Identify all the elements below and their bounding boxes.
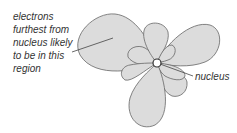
label-line: furthest from [13, 23, 72, 36]
nucleus-label: nucleus [195, 70, 229, 83]
label-line: region [13, 62, 72, 75]
nucleus-circle [153, 59, 161, 67]
label-line: nucleus likely [13, 36, 72, 49]
label-line: to be in this [13, 49, 72, 62]
electrons-region-label: electrons furthest from nucleus likely t… [13, 10, 72, 75]
label-line: electrons [13, 10, 72, 23]
